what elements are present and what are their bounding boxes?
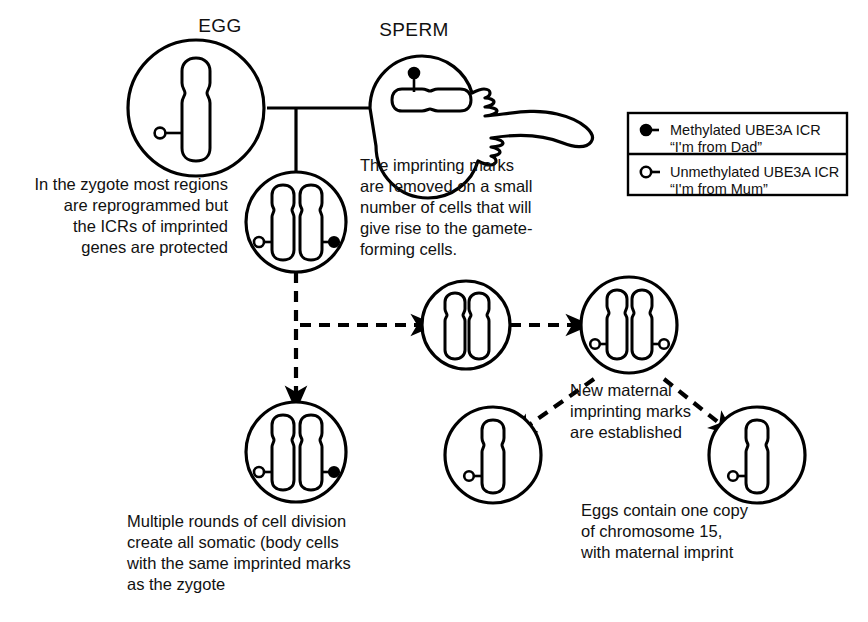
egg-left-unmethylated-marker-icon (464, 471, 474, 481)
zygote-chromosome-maternal-icon (272, 185, 294, 260)
zygote-unmethylated-marker-icon (254, 237, 264, 247)
caption-somatic-line-3: with the same imprinted marks (126, 554, 351, 572)
cell-egg: EGG (128, 15, 264, 176)
caption-zygote-line-3: the ICRs of imprinted (73, 217, 228, 235)
germcell-chromosome-right-icon (469, 293, 489, 359)
egg-left-chromosome-icon (482, 420, 504, 493)
caption-new-marks-line-2: imprinting marks (570, 402, 691, 420)
somatic-unmethylated-marker-icon (254, 467, 264, 477)
imprinting-diagram: EGG SPERM (0, 0, 868, 622)
somatic-methylated-marker-icon (329, 467, 339, 477)
caption-new-marks-line-3: are established (570, 423, 682, 441)
sperm-label: SPERM (379, 19, 449, 40)
oocyte-unmethylated-marker-left-icon (590, 339, 600, 349)
filled-circle-marker-icon (641, 125, 651, 135)
diagram-canvas: EGG SPERM (0, 0, 868, 622)
somatic-chromosome-maternal-icon (272, 415, 294, 490)
caption-erasure-line-1: The imprinting marks (360, 156, 514, 174)
caption-zygote-line-2: are reprogrammed but (64, 196, 229, 214)
cell-primordial-germ (422, 281, 510, 369)
oocyte-chromosome-left-icon (607, 290, 627, 359)
connector-zygote-branch (296, 272, 423, 398)
cell-egg-product-right (709, 407, 805, 503)
caption-somatic-line-2: create all somatic (body cells (127, 533, 339, 551)
sperm-chromosome-icon (392, 89, 471, 111)
egg-unmethylated-marker-icon (155, 128, 166, 139)
connector-egg-sperm (267, 108, 369, 172)
caption-new-marks: New maternal imprinting marks are establ… (570, 381, 691, 441)
oocyte-chromosome-right-icon (632, 290, 652, 359)
sperm-methylated-marker-icon (409, 68, 419, 78)
caption-erasure-line-2: are removed on a small (360, 177, 532, 195)
caption-somatic: Multiple rounds of cell division create … (126, 512, 351, 593)
caption-erasure-line-4: give rise to the gamete- (360, 219, 532, 237)
egg-right-chromosome-icon (746, 420, 768, 493)
zygote-methylated-marker-icon (329, 237, 339, 247)
cell-oocyte-precursor (581, 277, 677, 373)
legend-methylated-line-2: “I'm from Dad” (670, 139, 762, 155)
egg-chromosome-icon (182, 58, 210, 161)
caption-zygote-line-1: In the zygote most regions (34, 175, 228, 193)
legend-methylated-line-1: Methylated UBE3A ICR (670, 122, 821, 138)
oocyte-unmethylated-marker-right-icon (659, 339, 669, 349)
caption-zygote: In the zygote most regions are reprogram… (34, 175, 228, 256)
cell-egg-product-left (445, 407, 541, 503)
legend: Methylated UBE3A ICR “I'm from Dad” Unme… (628, 113, 847, 197)
caption-erasure-line-5: forming cells. (360, 240, 457, 258)
caption-somatic-line-1: Multiple rounds of cell division (127, 512, 346, 530)
zygote-chromosome-paternal-icon (300, 185, 322, 260)
caption-erasure: The imprinting marks are removed on a sm… (360, 156, 532, 258)
caption-eggs-result: Eggs contain one copy of chromosome 15, … (580, 501, 749, 561)
caption-zygote-line-4: genes are protected (81, 238, 228, 256)
egg-right-unmethylated-marker-icon (728, 471, 738, 481)
legend-unmethylated-line-1: Unmethylated UBE3A ICR (670, 164, 839, 180)
legend-unmethylated-line-2: “I'm from Mum” (670, 181, 768, 197)
caption-eggs-result-line-3: with maternal imprint (580, 543, 734, 561)
zygote-membrane-icon (246, 172, 346, 272)
somatic-membrane-icon (246, 402, 346, 502)
somatic-chromosome-paternal-icon (300, 415, 322, 490)
caption-eggs-result-line-1: Eggs contain one copy (581, 501, 749, 519)
caption-erasure-line-3: number of cells that will (360, 198, 532, 216)
open-circle-marker-icon (641, 167, 651, 177)
egg-label: EGG (198, 15, 241, 36)
caption-somatic-line-4: as the zygote (127, 575, 225, 593)
germcell-chromosome-left-icon (445, 293, 465, 359)
cell-somatic (246, 402, 346, 502)
caption-new-marks-line-1: New maternal (570, 381, 672, 399)
cell-zygote (246, 172, 346, 272)
caption-eggs-result-line-2: of chromosome 15, (581, 522, 722, 540)
oocyte-membrane-icon (581, 277, 677, 373)
